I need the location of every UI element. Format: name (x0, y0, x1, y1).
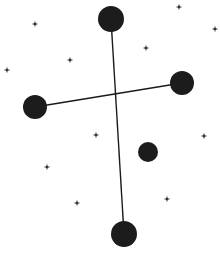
sparkle-star-icon (164, 196, 170, 202)
clipped-caption (84, 266, 140, 271)
sparkle-star-icon (44, 164, 50, 170)
sparkle-star-icon (93, 132, 99, 138)
sparkle-star-icon (143, 45, 149, 51)
sparkle-star-icon (201, 133, 207, 139)
connector-line-top-bottom (111, 19, 124, 234)
constellation-diagram (0, 0, 220, 271)
sparkle-star-icon (67, 57, 73, 63)
sparkle-star-icon (212, 26, 218, 32)
sparkle-star-icon (176, 4, 182, 10)
sparkle-star-icon (4, 67, 10, 73)
major-stars (23, 6, 194, 247)
major-star-top (98, 6, 124, 32)
major-star-left (23, 95, 47, 119)
connector-line-left-right (35, 83, 182, 107)
major-star-middle (138, 142, 158, 162)
sparkle-star-icon (74, 200, 80, 206)
constellation-lines (35, 19, 182, 234)
major-star-right (170, 71, 194, 95)
major-star-bottom (111, 221, 137, 247)
sparkle-star-icon (32, 21, 38, 27)
